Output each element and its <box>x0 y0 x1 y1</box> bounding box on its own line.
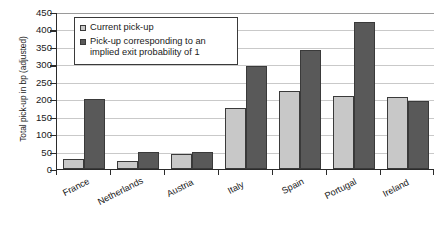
bar <box>192 152 213 169</box>
x-axis-category-label: Italy <box>226 179 246 196</box>
bar <box>408 101 429 169</box>
y-axis-tick-label: 350 <box>6 42 52 53</box>
y-axis-tick-label: 100 <box>6 129 52 140</box>
bar <box>333 96 354 169</box>
bar <box>300 50 321 169</box>
legend-item-implied-exit: Pick-up corresponding to an implied exit… <box>80 36 231 58</box>
bar <box>171 154 192 169</box>
x-axis-category-label: Austria <box>165 177 195 199</box>
x-axis-tick-mark <box>56 170 57 175</box>
y-axis-tick-label: 200 <box>6 94 52 105</box>
bar <box>138 152 159 169</box>
y-axis-tick-label: 50 <box>6 147 52 158</box>
y-axis-tick-label: 250 <box>6 77 52 88</box>
y-axis-tick-label: 400 <box>6 24 52 35</box>
bar <box>84 99 105 169</box>
legend-swatch-icon-light <box>80 25 86 31</box>
x-axis-category-label: Portugal <box>323 177 358 201</box>
bar <box>225 108 246 169</box>
x-axis-category-label: Spain <box>280 176 305 196</box>
y-axis-tick-label: 300 <box>6 59 52 70</box>
bar-chart: Total pick-up in bp (adjusted) 450400350… <box>0 0 437 238</box>
x-axis-tick-mark <box>326 170 327 175</box>
x-axis-tick-mark <box>272 170 273 175</box>
y-axis-tick-label: 0 <box>6 164 52 175</box>
legend-swatch-icon-dark <box>80 39 86 45</box>
y-axis-tick-label: 450 <box>6 7 52 18</box>
bar <box>279 91 300 170</box>
bar <box>387 97 408 169</box>
x-axis-category-label: Netherlands <box>96 176 145 207</box>
y-axis-tick-label: 150 <box>6 112 52 123</box>
x-axis-tick-mark <box>164 170 165 175</box>
legend-label-implied-exit: Pick-up corresponding to an implied exit… <box>90 36 231 58</box>
x-axis-tick-mark <box>380 170 381 175</box>
bar <box>246 66 267 169</box>
bar <box>354 22 375 169</box>
bar <box>63 159 84 169</box>
legend-label-current-pickup: Current pick-up <box>90 22 154 33</box>
legend: Current pick-up Pick-up corresponding to… <box>74 17 238 65</box>
x-axis-category-label: France <box>61 176 91 198</box>
x-axis-category-label: Ireland <box>381 178 411 200</box>
legend-item-current-pickup: Current pick-up <box>80 22 231 33</box>
x-axis-tick-mark <box>218 170 219 175</box>
x-axis-tick-mark <box>110 170 111 175</box>
bar <box>117 161 138 169</box>
x-axis-tick-mark <box>433 170 434 175</box>
